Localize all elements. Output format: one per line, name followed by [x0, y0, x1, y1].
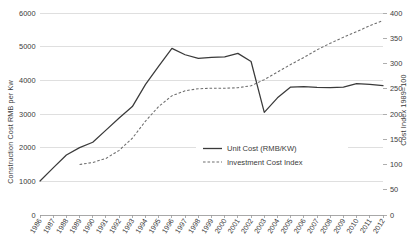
y-tick-label: 1000 — [19, 177, 35, 186]
line-chart: 0100020003000400050006000 05010015020025… — [0, 0, 415, 249]
x-tick-label: 1996 — [160, 217, 176, 235]
x-tick-label: 1998 — [186, 217, 202, 235]
x-tick-label: 2008 — [318, 217, 334, 235]
y2-tick-label: 100 — [390, 160, 402, 169]
y-axis-tick-labels: 0100020003000400050006000 — [19, 9, 35, 220]
x-tick-label: 1993 — [120, 217, 136, 235]
x-tick-label: 2004 — [265, 217, 281, 235]
legend-label-investment-cost-index: Investment Cost Index — [227, 158, 303, 167]
x-tick-label: 2005 — [278, 217, 294, 235]
x-axis-tick-labels: 1986198719881989199019911992199319941995… — [28, 215, 387, 235]
y2-axis-title: Cost Index 1989=100 — [399, 74, 408, 145]
y2-tick-label: 350 — [390, 34, 402, 43]
y2-tick-label: 0 — [390, 211, 394, 220]
chart-container: 0100020003000400050006000 05010015020025… — [0, 0, 415, 249]
x-tick-label: 1992 — [107, 217, 123, 235]
x-tick-label: 2002 — [239, 217, 255, 235]
y-tick-label: 3000 — [19, 110, 35, 119]
y-tick-label: 4000 — [19, 76, 35, 85]
x-tick-label: 2001 — [226, 217, 242, 235]
x-tick-label: 2006 — [292, 217, 308, 235]
x-tick-label: 1987 — [41, 217, 57, 235]
x-tick-label: 2012 — [371, 217, 387, 235]
x-tick-label: 1997 — [173, 217, 189, 235]
x-tick-label: 2007 — [305, 217, 321, 235]
x-tick-label: 1995 — [147, 217, 163, 235]
x-tick-label: 2009 — [331, 217, 347, 235]
y2-tick-label: 400 — [390, 9, 402, 18]
y2-axis-tickmarks — [383, 13, 387, 215]
x-tick-label: 1991 — [94, 217, 110, 235]
y-tick-label: 6000 — [19, 9, 35, 18]
y-tick-label: 5000 — [19, 42, 35, 51]
y-axis-title: Construction Cost RMB per Kw — [6, 80, 15, 184]
x-tick-label: 1994 — [133, 217, 149, 235]
x-tick-label: 2011 — [358, 217, 374, 235]
x-tick-label: 2000 — [212, 217, 228, 235]
y2-tick-label: 300 — [390, 59, 402, 68]
legend: Unit Cost (RMB/KW) Investment Cost Index — [196, 139, 348, 171]
x-tick-label: 2003 — [252, 217, 268, 235]
legend-label-unit-cost: Unit Cost (RMB/KW) — [227, 144, 297, 153]
y2-tick-label: 50 — [390, 185, 398, 194]
x-tick-label: 1986 — [28, 217, 44, 235]
x-tick-label: 1989 — [67, 217, 83, 235]
x-tick-label: 1988 — [54, 217, 70, 235]
x-tick-label: 1999 — [199, 217, 215, 235]
x-tick-label: 1990 — [81, 217, 97, 235]
y-tick-label: 2000 — [19, 143, 35, 152]
gridlines-group — [40, 13, 383, 215]
x-tick-label: 2010 — [344, 217, 360, 235]
